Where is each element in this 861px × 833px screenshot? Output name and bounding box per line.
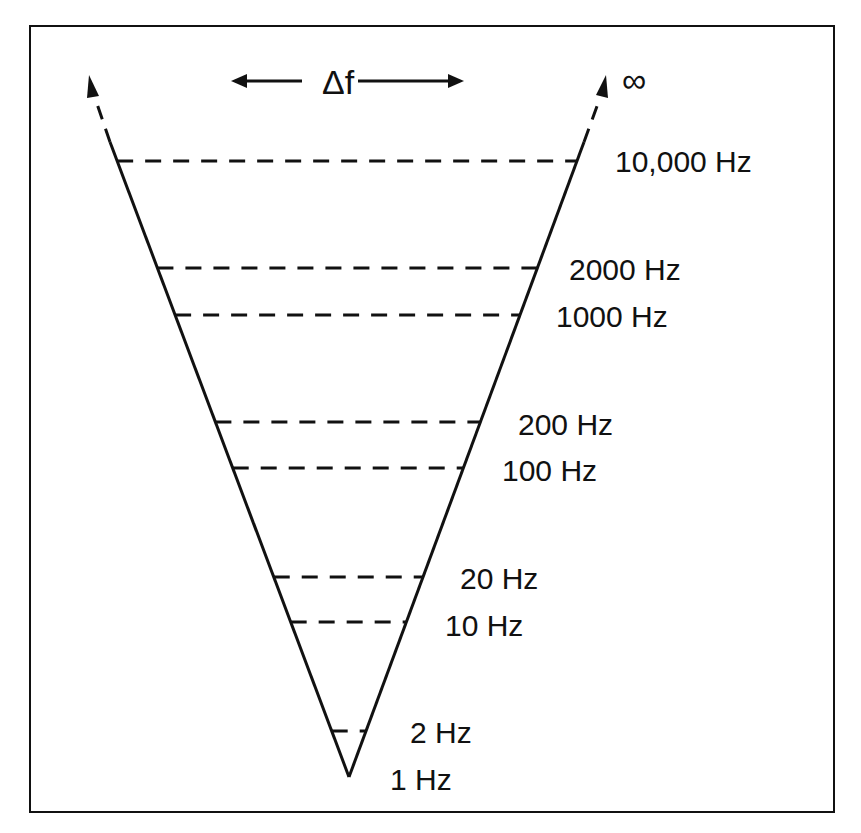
- frequency-funnel-diagram: Δf ∞ 10,000 Hz2000 Hz1000 Hz200 Hz100 Hz…: [0, 0, 861, 833]
- left-boundary-line: [110, 142, 349, 777]
- level-label: 10 Hz: [445, 609, 523, 642]
- level-label: 1000 Hz: [556, 300, 668, 333]
- right-extension-arrow-icon: [584, 75, 608, 142]
- arrow-right-icon: [448, 74, 464, 88]
- level-label: 100 Hz: [502, 454, 597, 487]
- level-label: 2000 Hz: [569, 253, 681, 286]
- frame-border: [30, 26, 834, 812]
- level-label: 20 Hz: [460, 562, 538, 595]
- arrow-left-icon: [231, 74, 247, 88]
- level-label: 200 Hz: [518, 408, 613, 441]
- delta-f-label: Δf: [322, 63, 355, 101]
- level-label: 2 Hz: [410, 716, 472, 749]
- left-extension-arrow-icon: [87, 75, 110, 142]
- level-label: 1 Hz: [390, 763, 452, 796]
- level-label: 10,000 Hz: [615, 145, 752, 178]
- infinity-label: ∞: [622, 61, 646, 99]
- frequency-levels: 10,000 Hz2000 Hz1000 Hz200 Hz100 Hz20 Hz…: [117, 145, 752, 796]
